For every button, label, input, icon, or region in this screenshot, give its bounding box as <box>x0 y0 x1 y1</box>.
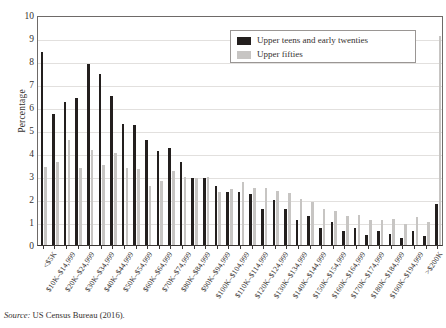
bar-upper-fifties <box>276 191 279 245</box>
bar-group <box>108 17 120 245</box>
bar-upper-fifties <box>334 211 337 246</box>
bar-upper-fifties <box>242 182 245 245</box>
bar-upper-teens <box>365 235 368 245</box>
bar-upper-teens <box>261 209 264 245</box>
bar-upper-teens <box>52 114 55 245</box>
bar-upper-fifties <box>358 215 361 245</box>
bar-group <box>142 17 154 245</box>
bar-upper-fifties <box>68 140 71 245</box>
legend-swatch-dark-icon <box>237 37 251 45</box>
legend-item-upper-fifties: Upper fifties <box>237 48 409 61</box>
x-tick-mark <box>89 246 90 249</box>
bar-upper-teens <box>319 228 322 245</box>
x-tick-mark <box>368 246 369 249</box>
bar-upper-fifties <box>311 202 314 245</box>
bar-upper-fifties <box>392 219 395 245</box>
x-tick-mark <box>194 246 195 249</box>
x-tick-mark <box>391 246 392 249</box>
bar-upper-fifties <box>439 36 442 245</box>
bar-group <box>200 17 212 245</box>
bar-group <box>189 17 201 245</box>
x-tick-mark <box>379 246 380 249</box>
bar-group <box>131 17 143 245</box>
source-caption: Source: US Census Bureau (2016). <box>4 310 125 320</box>
bar-group <box>38 17 50 245</box>
y-tick-label: 4 <box>16 149 34 159</box>
bar-upper-fifties <box>253 188 256 246</box>
x-tick-mark <box>147 246 148 249</box>
bar-upper-fifties <box>265 188 268 246</box>
bar-group <box>50 17 62 245</box>
bar-upper-teens <box>296 220 299 245</box>
x-tick-mark <box>286 246 287 249</box>
y-tick-label: 8 <box>16 57 34 67</box>
bar-upper-fifties <box>160 181 163 245</box>
bar-upper-teens <box>331 222 334 245</box>
x-tick-mark <box>228 246 229 249</box>
legend-item-upper-teens: Upper teens and early twenties <box>237 34 409 47</box>
bar-upper-fifties <box>44 167 47 245</box>
bar-group <box>421 17 433 245</box>
legend-swatch-light-icon <box>237 51 251 59</box>
bar-upper-fifties <box>300 199 303 245</box>
y-tick-label: 2 <box>16 195 34 205</box>
bar-group <box>166 17 178 245</box>
bar-upper-teens <box>238 192 241 245</box>
x-tick-mark <box>344 246 345 249</box>
source-prefix: Source: <box>4 310 30 320</box>
bar-upper-teens <box>377 231 380 245</box>
y-tick-label: 6 <box>16 103 34 113</box>
bar-upper-teens <box>354 228 357 245</box>
bar-upper-fifties <box>427 222 430 245</box>
x-tick-mark <box>217 246 218 249</box>
bar-group <box>212 17 224 245</box>
bar-upper-fifties <box>102 165 105 246</box>
bar-upper-fifties <box>149 186 152 245</box>
bar-group <box>73 17 85 245</box>
bar-upper-teens <box>157 151 160 245</box>
bar-upper-teens <box>412 231 415 245</box>
chart-legend: Upper teens and early twenties Upper fif… <box>230 30 416 63</box>
bar-group <box>177 17 189 245</box>
x-tick-mark <box>321 246 322 249</box>
bar-upper-fifties <box>346 216 349 245</box>
bar-upper-fifties <box>404 224 407 245</box>
bar-upper-teens <box>64 102 67 245</box>
bar-upper-teens <box>400 238 403 245</box>
bar-upper-fifties <box>207 177 210 245</box>
bar-upper-fifties <box>184 177 187 245</box>
x-tick-mark <box>310 246 311 249</box>
x-tick-mark <box>182 246 183 249</box>
x-tick-mark <box>437 246 438 249</box>
x-tick-mark <box>159 246 160 249</box>
bar-upper-fifties <box>288 193 291 245</box>
bar-upper-teens <box>273 200 276 245</box>
bar-upper-teens <box>180 162 183 245</box>
bar-upper-teens <box>226 192 229 245</box>
x-tick-mark <box>43 246 44 249</box>
bar-upper-teens <box>249 194 252 245</box>
bar-upper-teens <box>203 178 206 245</box>
x-tick-mark <box>54 246 55 249</box>
x-tick-mark <box>240 246 241 249</box>
y-tick-label: 9 <box>16 34 34 44</box>
legend-label: Upper teens and early twenties <box>257 36 368 45</box>
bar-upper-teens <box>435 204 438 245</box>
bar-upper-fifties <box>114 153 117 245</box>
x-tick-mark <box>402 246 403 249</box>
bar-group <box>84 17 96 245</box>
bar-upper-teens <box>284 209 287 245</box>
bar-upper-fifties <box>323 209 326 245</box>
bar-group <box>432 17 444 245</box>
y-tick-label: 0 <box>16 241 34 251</box>
x-tick-mark <box>78 246 79 249</box>
x-tick-mark <box>112 246 113 249</box>
y-tick-label: 7 <box>16 80 34 90</box>
bar-upper-teens <box>389 234 392 246</box>
x-tick-mark <box>170 246 171 249</box>
bar-upper-fifties <box>172 171 175 245</box>
bar-group <box>61 17 73 245</box>
bar-upper-teens <box>145 140 148 245</box>
bar-upper-fifties <box>381 220 384 245</box>
bar-upper-fifties <box>79 168 82 245</box>
